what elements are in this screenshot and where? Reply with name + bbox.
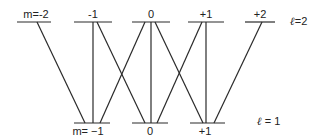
upper-manifold-label: ℓ=2 [290, 16, 307, 27]
upper-level-label-m0: 0 [148, 9, 154, 20]
transition-line [37, 22, 85, 123]
lower-level-label-m+1: +1 [199, 126, 212, 137]
upper-level-label-m-1: -1 [88, 9, 98, 20]
transition-line [214, 22, 262, 123]
lower-manifold-label: ℓ = 1 [257, 116, 280, 127]
transition-lines [37, 22, 262, 123]
upper-level-label-m+2: +2 [254, 9, 267, 20]
upper-manifold-value: =2 [295, 15, 308, 27]
lower-manifold-value: = 1 [262, 115, 281, 127]
lower-level-label-m-1: m= −1 [72, 126, 103, 137]
upper-level-label-m+1: +1 [200, 9, 213, 20]
lower-level-label-m0: 0 [147, 126, 153, 137]
upper-level-label-m-2: m=-2 [23, 9, 48, 20]
